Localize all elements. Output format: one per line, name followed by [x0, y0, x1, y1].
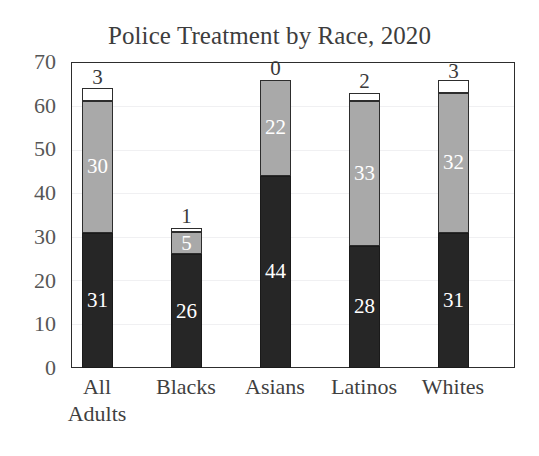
y-axis-tick: 70: [0, 51, 64, 73]
x-axis-category-line: Whites: [414, 374, 492, 401]
bar-segment-gray[interactable]: 33: [349, 101, 380, 245]
y-axis: 70 60 50 40 30 20 10 0: [0, 62, 64, 368]
y-axis-tick: 40: [0, 182, 64, 204]
bar-segment-label: 28: [354, 296, 375, 317]
bar-segment-white[interactable]: [82, 88, 113, 101]
y-axis-tick: 20: [0, 270, 64, 292]
x-axis-category-line: Latinos: [325, 374, 403, 401]
x-axis-category-asians: Asians: [236, 374, 314, 401]
x-axis-category-blacks: Blacks: [147, 374, 225, 401]
x-axis-category-line: Asians: [236, 374, 314, 401]
bar-segment-label: 31: [87, 290, 108, 311]
bar-segment-white[interactable]: [438, 80, 469, 93]
y-axis-tick: 30: [0, 226, 64, 248]
bar-segment-gray[interactable]: 32: [438, 93, 469, 233]
bar-segment-dark[interactable]: 31: [438, 233, 469, 369]
x-axis-category-line: Blacks: [147, 374, 225, 401]
bar-segment-gray[interactable]: 30: [82, 101, 113, 232]
chart-container: Police Treatment by Race, 2020 70 60 50 …: [0, 0, 539, 456]
y-axis-tick: 50: [0, 138, 64, 160]
y-axis-tick: 60: [0, 95, 64, 117]
bar-segment-white[interactable]: [349, 93, 380, 102]
bar-segment-label: 1: [181, 206, 192, 227]
x-axis-category-latinos: Latinos: [325, 374, 403, 401]
x-axis-category-all-adults: All Adults: [58, 374, 136, 428]
x-axis-category-whites: Whites: [414, 374, 492, 401]
y-axis-tick: 10: [0, 313, 64, 335]
bar-segment-label: 31: [443, 290, 464, 311]
bar-segment-dark[interactable]: 26: [171, 254, 202, 368]
y-axis-tick: 0: [0, 357, 64, 379]
bar-segment-label: 0: [270, 58, 281, 79]
bar-segment-label: 30: [87, 156, 108, 177]
bar-segment-white[interactable]: [171, 228, 202, 232]
bar-segment-dark[interactable]: 31: [82, 233, 113, 369]
bar-segment-label: 26: [176, 301, 197, 322]
bar-segment-label: 33: [354, 163, 375, 184]
bar-segment-label: 2: [359, 71, 370, 92]
bar-segment-gray[interactable]: 22: [260, 80, 291, 176]
x-axis: All Adults Blacks Asians Latinos Whites: [71, 374, 515, 444]
bars-layer: 31 30 3 26 5 1 44 22: [71, 62, 515, 368]
bar-segment-label: 3: [92, 67, 103, 88]
chart-title: Police Treatment by Race, 2020: [0, 22, 539, 50]
bar-segment-dark[interactable]: 44: [260, 176, 291, 368]
bar-segment-dark[interactable]: 28: [349, 246, 380, 368]
bar-segment-label: 22: [265, 117, 286, 138]
bar-segment-label: 32: [443, 152, 464, 173]
x-axis-category-line: Adults: [58, 401, 136, 428]
bar-segment-label: 44: [265, 261, 286, 282]
bar-segment-label: 5: [181, 233, 192, 254]
x-axis-category-line: All: [58, 374, 136, 401]
bar-segment-gray[interactable]: 5: [171, 232, 202, 254]
